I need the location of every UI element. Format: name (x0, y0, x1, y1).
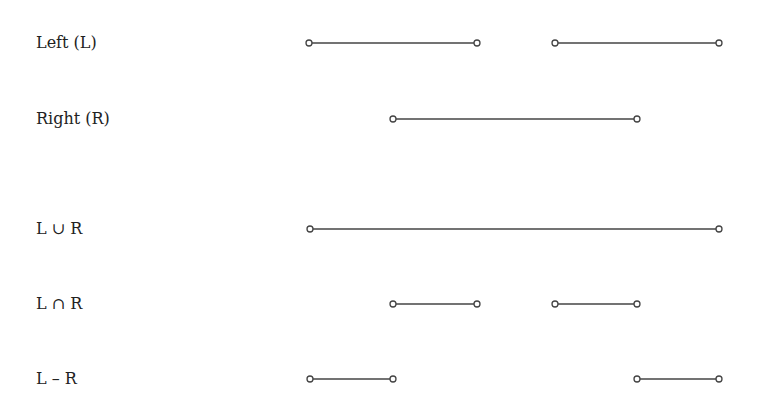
open-endpoint-start-icon (306, 40, 312, 46)
interval-segment-intersection-2 (552, 301, 640, 307)
open-endpoint-end-icon (474, 301, 480, 307)
interval-segment-difference-2 (634, 376, 722, 382)
open-endpoint-start-icon (552, 301, 558, 307)
interval-segment-difference-1 (307, 376, 396, 382)
open-endpoint-end-icon (716, 376, 722, 382)
open-endpoint-end-icon (634, 301, 640, 307)
open-endpoint-start-icon (390, 116, 396, 122)
open-endpoint-start-icon (552, 40, 558, 46)
open-endpoint-start-icon (634, 376, 640, 382)
interval-segment-intersection-1 (390, 301, 480, 307)
interval-segment-union-1 (307, 226, 722, 232)
open-endpoint-start-icon (307, 226, 313, 232)
open-endpoint-end-icon (716, 226, 722, 232)
interval-diagram (0, 0, 768, 393)
interval-segment-left-1 (306, 40, 480, 46)
open-endpoint-start-icon (307, 376, 313, 382)
open-endpoint-end-icon (390, 376, 396, 382)
open-endpoint-end-icon (634, 116, 640, 122)
interval-segment-right-1 (390, 116, 640, 122)
open-endpoint-end-icon (474, 40, 480, 46)
open-endpoint-end-icon (716, 40, 722, 46)
open-endpoint-start-icon (390, 301, 396, 307)
interval-segment-left-2 (552, 40, 722, 46)
